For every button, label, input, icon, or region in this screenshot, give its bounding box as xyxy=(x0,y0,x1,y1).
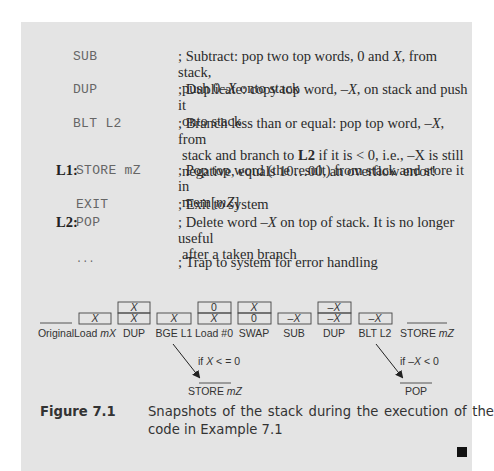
cell-value: X xyxy=(90,312,99,324)
branch-arrow-bge xyxy=(173,344,199,377)
cell-value: X xyxy=(129,312,138,324)
snapshot-label: SWAP xyxy=(239,327,270,339)
branch-arrow-blt xyxy=(376,344,402,377)
snapshot-label: Load mX xyxy=(74,327,117,339)
snapshot-label: DUP xyxy=(123,327,145,339)
branch-target: STORE mZ xyxy=(188,385,243,397)
snapshot-label: Original xyxy=(38,327,74,339)
cell-value: –X xyxy=(327,312,342,324)
cell-value: –X xyxy=(368,312,383,324)
snapshot-label: SUB xyxy=(283,327,305,339)
end-of-example-mark xyxy=(457,447,467,457)
snapshot-label: BLT L2 xyxy=(359,327,392,339)
cell-value: 0 xyxy=(211,301,217,313)
cell-value: X xyxy=(169,312,178,324)
snapshot-label: Load #0 xyxy=(195,327,233,339)
cell-value: X xyxy=(209,312,218,324)
cell-value: 0 xyxy=(251,312,257,324)
cell-value: –X xyxy=(287,312,302,324)
snapshot-label: BGE L1 xyxy=(156,327,193,339)
snapshot-label: DUP xyxy=(323,327,345,339)
branch-condition: if X < = 0 xyxy=(198,355,240,367)
snapshot-label: STORE mZ xyxy=(400,327,455,339)
branch-target: POP xyxy=(405,385,427,397)
figure-label: Figure 7.1 xyxy=(40,403,130,421)
branch-condition: if –X < 0 xyxy=(400,355,439,367)
caption-text: Snapshots of the stack during the execut… xyxy=(148,403,494,439)
